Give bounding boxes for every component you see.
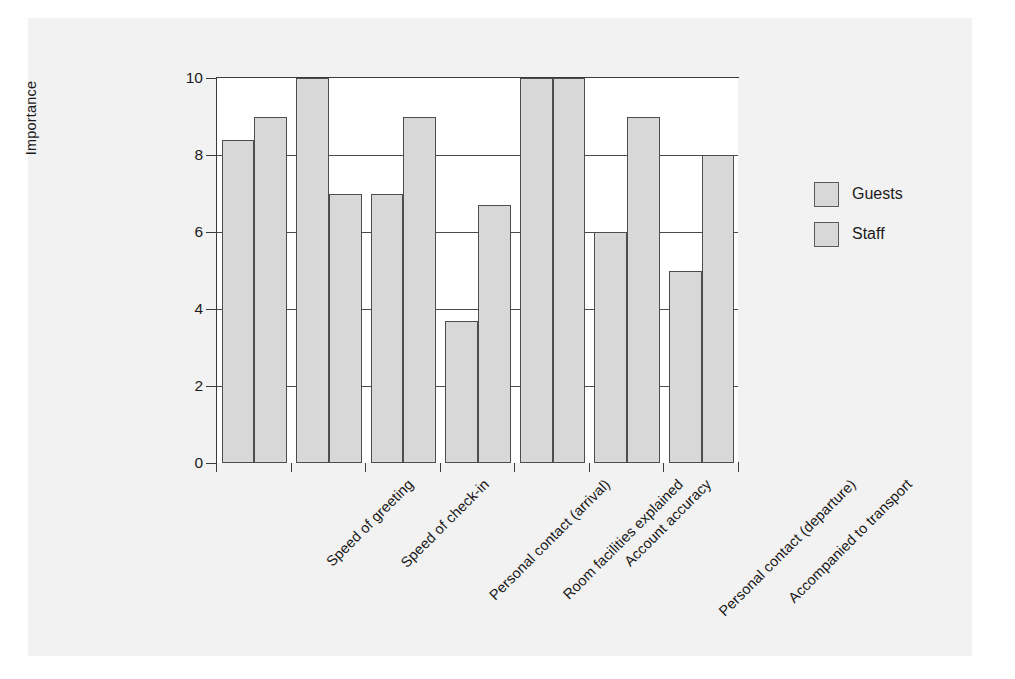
bars-layer	[217, 78, 738, 463]
bar	[627, 117, 660, 464]
legend-item: Staff	[814, 221, 954, 247]
y-axis-tick-label: 8	[194, 146, 203, 164]
y-axis-tick-label: 4	[194, 300, 203, 318]
x-axis-tick-mark	[738, 463, 739, 472]
bar	[371, 194, 404, 464]
plot-area	[216, 78, 738, 463]
x-axis-tick-mark	[514, 463, 515, 472]
y-axis-tick-label: 2	[194, 377, 203, 395]
y-axis-tick-mark	[206, 309, 216, 310]
bar	[254, 117, 287, 464]
bar	[702, 155, 735, 463]
x-axis-tick-mark	[365, 463, 366, 472]
legend-label: Staff	[852, 225, 885, 243]
y-axis-tick-label: 0	[194, 454, 203, 472]
bar	[329, 194, 362, 464]
legend-swatch	[814, 182, 839, 207]
chart-figure: Importance 0246810 Speed of greetingSpee…	[28, 18, 972, 656]
bar	[553, 78, 586, 463]
bar	[520, 78, 553, 463]
bar	[445, 321, 478, 463]
bar	[669, 271, 702, 464]
bar	[478, 205, 511, 463]
legend-label: Guests	[852, 185, 903, 203]
y-axis-tick-mark	[206, 155, 216, 156]
x-axis-tick-mark	[589, 463, 590, 472]
x-axis-tick-mark	[216, 463, 217, 472]
legend-swatch	[814, 222, 839, 247]
y-axis-tick-mark	[206, 78, 216, 79]
x-axis-tick-label: Personal contact (arrival)	[486, 476, 613, 603]
bar	[403, 117, 436, 464]
y-axis-tick-mark	[206, 232, 216, 233]
y-axis-tick-labels: 0246810	[158, 78, 203, 463]
x-axis-tick-mark	[291, 463, 292, 472]
y-axis-tick-mark	[206, 386, 216, 387]
bar	[296, 78, 329, 463]
x-axis-tick-label: Room facilities explained	[560, 476, 686, 602]
legend-item: Guests	[814, 181, 954, 207]
y-axis-label: Importance	[23, 18, 39, 218]
y-axis-tick-label: 6	[194, 223, 203, 241]
bar	[594, 232, 627, 463]
x-axis-tick-mark	[440, 463, 441, 472]
y-axis-tick-label: 10	[186, 69, 203, 87]
x-axis-tick-mark	[663, 463, 664, 472]
chart-legend: GuestsStaff	[814, 181, 954, 261]
y-axis-tick-mark	[206, 463, 216, 464]
bar	[222, 140, 255, 463]
